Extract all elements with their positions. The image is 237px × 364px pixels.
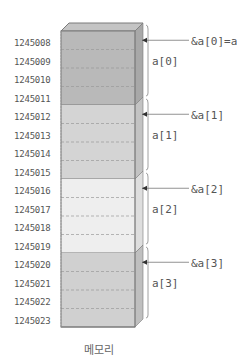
address-label: 1245009 <box>14 57 58 67</box>
address-label: 1245014 <box>14 149 58 159</box>
column-top-face <box>61 23 143 31</box>
element-bracket <box>146 247 148 318</box>
address-label: 1245015 <box>14 168 58 178</box>
memory-block-side-0 <box>135 23 143 105</box>
element-label-a2: a[2] <box>152 204 179 216</box>
address-label: 1245023 <box>14 316 58 326</box>
address-label: 1245021 <box>14 279 58 289</box>
element-bracket <box>146 173 148 244</box>
pointer-label-a0: &a[0]=a <box>191 36 237 48</box>
address-label: 1245017 <box>14 205 58 215</box>
address-label: 1245010 <box>14 75 58 85</box>
pointer-label-a2: &a[2] <box>191 184 224 196</box>
address-label: 1245019 <box>14 242 58 252</box>
pointer-label-a3: &a[3] <box>191 258 224 270</box>
memory-block-side-1 <box>135 97 143 179</box>
memory-block-side-2 <box>135 171 143 253</box>
address-label: 1245008 <box>14 38 58 48</box>
pointer-label-a1: &a[1] <box>191 110 224 122</box>
element-label-a3: a[3] <box>152 278 179 290</box>
address-label: 1245022 <box>14 297 58 307</box>
element-bracket <box>146 99 148 170</box>
address-label: 1245011 <box>14 94 58 104</box>
address-label: 1245013 <box>14 131 58 141</box>
memory-diagram: 1245008 1245009 1245010 1245011 1245012 … <box>0 0 237 364</box>
memory-caption: 메모리 <box>61 341 136 357</box>
element-label-a0: a[0] <box>152 56 179 68</box>
memory-column-graphic <box>0 0 237 364</box>
address-label: 1245016 <box>14 186 58 196</box>
element-label-a1: a[1] <box>152 130 179 142</box>
memory-block-side-3 <box>135 245 143 327</box>
address-label: 1245012 <box>14 112 58 122</box>
element-bracket <box>146 25 148 96</box>
address-label: 1245020 <box>14 260 58 270</box>
address-label: 1245018 <box>14 223 58 233</box>
